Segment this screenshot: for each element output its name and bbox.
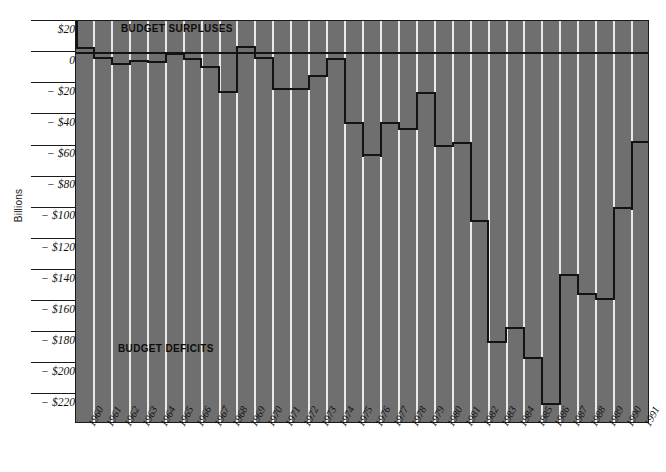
y-tick-rule (31, 362, 75, 363)
step-segment (202, 66, 220, 68)
y-tick-rule (31, 51, 75, 52)
step-segment (184, 58, 202, 60)
step-riser (487, 220, 489, 343)
annotation-budget-surpluses: BUDGET SURPLUSES (121, 23, 233, 34)
gridline (93, 21, 95, 422)
y-tick-rule (31, 238, 75, 239)
step-segment (632, 141, 649, 143)
step-riser (308, 75, 310, 90)
step-segment (112, 63, 130, 65)
y-axis-tick-labels: $200− $20− $40− $60− $80− $100− $120− $1… (0, 0, 75, 472)
step-riser (505, 327, 507, 343)
step-riser (218, 66, 220, 93)
annotation-budget-deficits: BUDGET DEFICITS (118, 343, 214, 354)
step-segment (166, 53, 184, 55)
step-riser (613, 207, 615, 299)
step-segment (560, 274, 578, 276)
gridline (147, 21, 149, 422)
step-segment (363, 154, 381, 156)
step-segment (435, 145, 453, 147)
y-tick-label: 0 (28, 54, 75, 66)
step-segment (507, 327, 525, 329)
y-tick-label: − $80 (28, 178, 75, 190)
step-riser (434, 92, 436, 147)
step-segment (130, 60, 148, 62)
gridline (595, 21, 597, 422)
gridline (523, 21, 525, 422)
step-riser (236, 46, 238, 93)
step-segment (524, 357, 542, 359)
step-riser (523, 327, 525, 359)
y-tick-label: $20 (28, 23, 75, 35)
gridline (434, 21, 436, 422)
y-tick-label: − $220 (28, 396, 75, 408)
step-segment (345, 122, 363, 124)
step-segment (148, 61, 166, 63)
y-tick-rule (31, 145, 75, 146)
step-riser (326, 58, 328, 77)
y-tick-rule (31, 300, 75, 301)
step-segment (596, 298, 614, 300)
gridline (165, 21, 167, 422)
step-segment (614, 207, 632, 209)
step-riser (272, 57, 274, 90)
step-segment (291, 88, 309, 90)
step-segment (255, 57, 273, 59)
step-segment (471, 220, 489, 222)
gridline (201, 21, 203, 422)
gridline (326, 21, 328, 422)
x-axis-tick-labels: 1960196119621963196419651966196719681969… (75, 423, 649, 472)
y-tick-rule (31, 176, 75, 177)
gridline (290, 21, 292, 422)
gridline (129, 21, 131, 422)
y-tick-label: − $140 (28, 272, 75, 284)
gridline (362, 21, 364, 422)
step-riser (380, 122, 382, 157)
gridline (111, 21, 113, 422)
gridline (452, 21, 454, 422)
gridline (631, 21, 633, 422)
step-segment (220, 91, 238, 93)
plot-area: BUDGET SURPLUSES BUDGET DEFICITS (75, 20, 649, 423)
step-riser-open (76, 21, 78, 49)
gridline (254, 21, 256, 422)
step-segment (94, 57, 112, 59)
y-tick-label: − $60 (28, 147, 75, 159)
y-tick-label: − $20 (28, 85, 75, 97)
y-tick-label: − $100 (28, 209, 75, 221)
step-segment (76, 47, 94, 49)
y-tick-label: − $180 (28, 334, 75, 346)
y-tick-rule (31, 20, 75, 21)
y-tick-rule (31, 393, 75, 394)
step-riser (631, 141, 633, 210)
gridline (506, 21, 508, 422)
step-segment (327, 58, 345, 60)
step-riser (344, 58, 346, 124)
y-tick-rule (31, 269, 75, 270)
gridline (398, 21, 400, 422)
step-riser (470, 142, 472, 222)
step-segment (399, 128, 417, 130)
gridline (380, 21, 382, 422)
y-tick-label: − $160 (28, 303, 75, 315)
y-tick-label: − $40 (28, 116, 75, 128)
y-tick-rule (31, 207, 75, 208)
step-riser (416, 92, 418, 130)
y-tick-rule (31, 113, 75, 114)
step-riser (362, 122, 364, 157)
step-segment (417, 92, 435, 94)
step-segment (381, 122, 399, 124)
gridline (577, 21, 579, 422)
step-segment (237, 46, 255, 48)
step-segment (309, 75, 327, 77)
step-segment (273, 88, 291, 90)
step-segment (578, 293, 596, 295)
y-tick-label: − $200 (28, 365, 75, 377)
y-tick-rule (31, 331, 75, 332)
y-tick-label: − $120 (28, 241, 75, 253)
zero-baseline (76, 52, 648, 54)
gridline (183, 21, 185, 422)
budget-deficit-chart: Billions $200− $20− $40− $60− $80− $100−… (0, 0, 666, 472)
gridline (416, 21, 418, 422)
step-segment (489, 341, 507, 343)
